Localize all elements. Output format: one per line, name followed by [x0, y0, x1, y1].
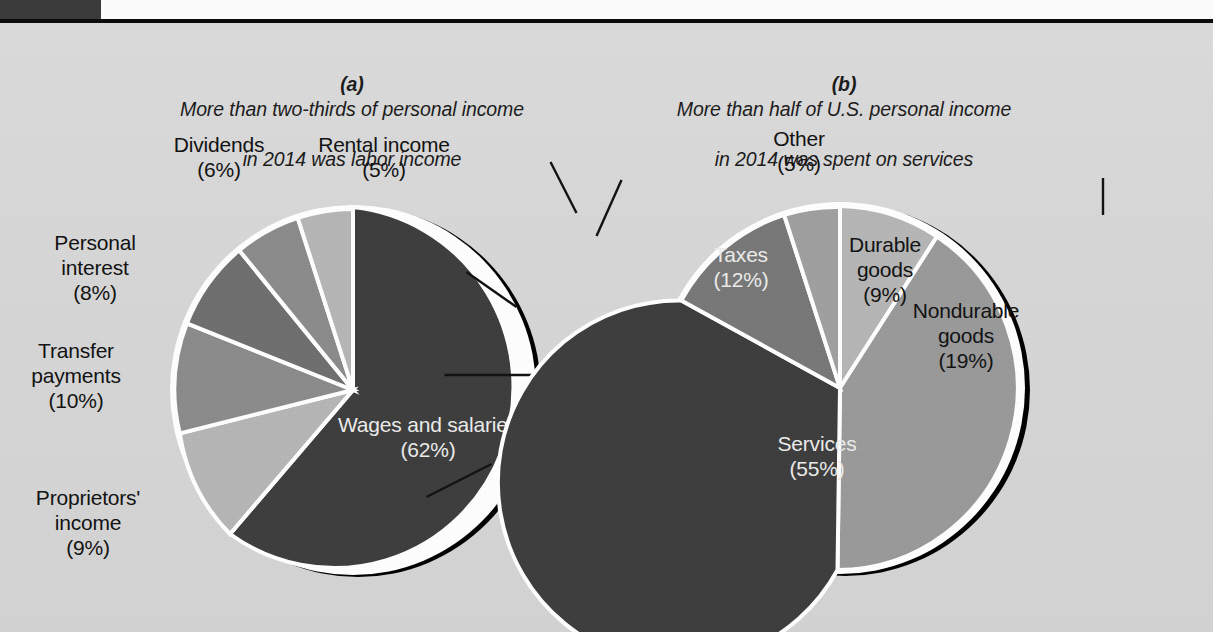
- figure-page: (a) More than two-thirds of personal inc…: [0, 0, 1213, 632]
- label-proprietors-income: Proprietors' income (9%): [14, 485, 162, 560]
- label-rental-income: Rental income (5%): [298, 132, 470, 182]
- label-nondurable-goods: Nondurable goods (19%): [868, 298, 1064, 373]
- label-transfer-payments: Transfer payments (10%): [10, 338, 142, 413]
- label-personal-interest: Personal interest (8%): [26, 230, 164, 305]
- label-durable-goods: Durable goods (9%): [810, 232, 960, 307]
- label-taxes: Taxes (12%): [674, 242, 808, 292]
- label-services: Services (55%): [722, 431, 912, 481]
- pie-chart-b: Other (5%) Durable goods (9%) Nondurable…: [610, 0, 1213, 632]
- label-dividends: Dividends (6%): [140, 132, 298, 182]
- label-other: Other (5%): [728, 126, 870, 176]
